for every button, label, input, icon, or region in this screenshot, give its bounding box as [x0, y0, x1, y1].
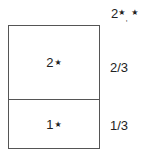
- star-icon: ★: [131, 8, 138, 17]
- star-icon: ★: [55, 58, 62, 67]
- star-icon: ★: [55, 120, 62, 129]
- top-label: 2★, ★: [111, 6, 138, 26]
- cell-lower-label: 1: [46, 117, 53, 132]
- partition-box: 2★ 1★: [8, 25, 100, 149]
- cell-upper: 2★: [9, 26, 99, 100]
- cell-upper-label: 2: [46, 55, 53, 70]
- fraction-upper: 2/3: [110, 60, 128, 75]
- cell-lower: 1★: [9, 100, 99, 148]
- comma-separator: ,: [125, 14, 127, 23]
- fraction-lower: 1/3: [110, 118, 128, 133]
